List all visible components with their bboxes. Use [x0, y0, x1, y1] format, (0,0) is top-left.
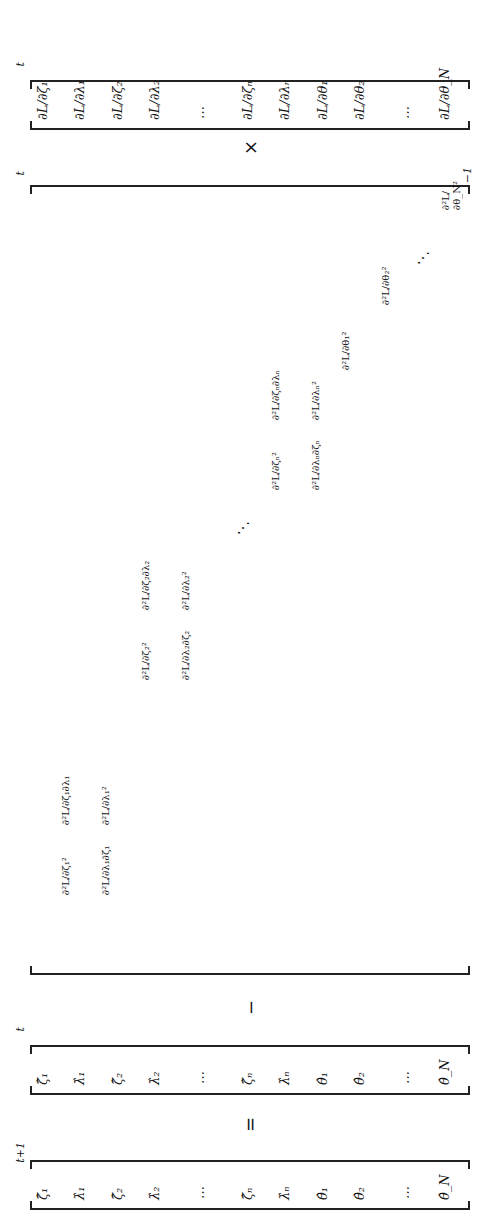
vector-entry: θ̂₂	[352, 1187, 367, 1200]
superscript: t+1	[14, 1142, 27, 1163]
vector-entry: ⋯	[400, 1072, 415, 1085]
hessian-diag-entry: ∂²L/∂θ₂²	[380, 267, 391, 305]
diagonal-dots: ⋱	[415, 251, 431, 265]
vector-entry: ⋯	[195, 107, 210, 120]
vector-entry: θ̂₁	[315, 1187, 330, 1200]
vector-entry: ∂L/∂λ₁	[72, 80, 87, 120]
vector-entry: ζ̂ₙ	[240, 1073, 255, 1085]
hessian-entry: ∂²L/∂ζ₁²	[60, 857, 71, 895]
vector-entry: ∂L/∂ζ₁	[35, 81, 50, 120]
vector-entry: λ̂₁	[72, 1072, 87, 1085]
vector-entry: θ̂₁	[315, 1072, 330, 1085]
lhs-vector: ζ̂₁λ̂₁ζ̂₂λ̂₂⋯ζ̂ₙλ̂ₙθ̂₁θ̂₂⋯θ̂_Nt+1	[30, 1160, 470, 1210]
vector-entry: ζ̂₂	[110, 1188, 125, 1200]
hessian-entry: ∂²L/∂λₙ∂ζₙ	[310, 440, 321, 490]
hessian-diag-entry: ∂²L/∂θ_N²	[440, 181, 462, 210]
superscript: t	[14, 1027, 27, 1031]
vector-entry: θ̂_N	[437, 1174, 452, 1200]
vector-entry: θ̂₂	[352, 1072, 367, 1085]
gradient-vector: ∂L/∂ζ₁∂L/∂λ₁∂L/∂ζ₂∂L/∂λ₂⋯∂L/∂ζₙ∂L/∂λₙ∂L/…	[30, 80, 470, 130]
vector-entry: ∂L/∂θ₁	[315, 81, 330, 121]
hessian-entry: ∂²L/∂ζ₁∂λ₁	[60, 776, 71, 825]
vector-entry: λ̂ₙ	[277, 1186, 292, 1200]
current-vector: ζ̂₁λ̂₁ζ̂₂λ̂₂⋯ζ̂ₙλ̂ₙθ̂₁θ̂₂⋯θ̂_Nt	[30, 1045, 470, 1095]
vector-entry: ∂L/∂θ_N	[437, 68, 452, 120]
vector-entry: λ̂₂	[147, 1072, 162, 1085]
hessian-entry: ∂²L/∂λ₁∂ζ₁	[100, 846, 111, 895]
newton-raphson-equation: ζ̂₁λ̂₁ζ̂₂λ̂₂⋯ζ̂ₙλ̂ₙθ̂₁θ̂₂⋯θ̂_Nt+1ζ̂₁λ̂₁ζ…	[0, 0, 500, 1225]
hessian-matrix: t−1∂²L/∂ζ₁²∂²L/∂ζ₁∂λ₁∂²L/∂λ₁∂ζ₁∂²L/∂λ₁²∂…	[30, 185, 470, 975]
vector-entry: ∂L/∂θ₂	[352, 81, 367, 121]
vector-entry: ζ̂₁	[35, 1073, 50, 1085]
hessian-entry: ∂²L/∂ζₙ∂λₙ	[270, 370, 281, 420]
vector-entry: ⋯	[400, 107, 415, 120]
vector-entry: ζ̂₁	[35, 1188, 50, 1200]
hessian-entry: ∂²L/∂ζ₂²	[140, 642, 151, 680]
vector-entry: ⋯	[400, 1187, 415, 1200]
vector-entry: ⋯	[195, 1187, 210, 1200]
hessian-diag-entry: ∂²L/∂θ₁²	[340, 332, 351, 370]
vector-entry: ζ̂ₙ	[240, 1188, 255, 1200]
vector-entry: ⋯	[195, 1072, 210, 1085]
vector-entry: θ̂_N	[437, 1059, 452, 1085]
vector-entry: ∂L/∂λ₂	[147, 80, 162, 120]
hessian-entry: ∂²L/∂λ₂²	[180, 571, 191, 610]
hessian-entry: ∂²L/∂ζₙ²	[270, 452, 281, 490]
hessian-entry: ∂²L/∂λₙ²	[310, 381, 321, 420]
hessian-entry: ∂²L/∂ζ₂∂λ₂	[140, 561, 151, 610]
minus-sign: −	[240, 1000, 261, 1015]
diagonal-dots: ⋱	[235, 521, 251, 535]
times-sign: ×	[240, 140, 261, 155]
hessian-entry: ∂²L/∂λ₁²	[100, 786, 111, 825]
hessian-entry: ∂²L/∂λ₂∂ζ₂	[180, 631, 191, 680]
vector-entry: ζ̂₂	[110, 1073, 125, 1085]
superscript: t	[14, 62, 27, 66]
equals-sign: =	[240, 1117, 261, 1132]
vector-entry: λ̂₂	[147, 1187, 162, 1200]
vector-entry: ∂L/∂ζ₂	[110, 81, 125, 120]
vector-entry: λ̂₁	[72, 1187, 87, 1200]
vector-entry: ∂L/∂λₙ	[277, 80, 292, 120]
vector-entry: λ̂ₙ	[277, 1071, 292, 1085]
vector-entry: ∂L/∂ζₙ	[240, 81, 255, 120]
